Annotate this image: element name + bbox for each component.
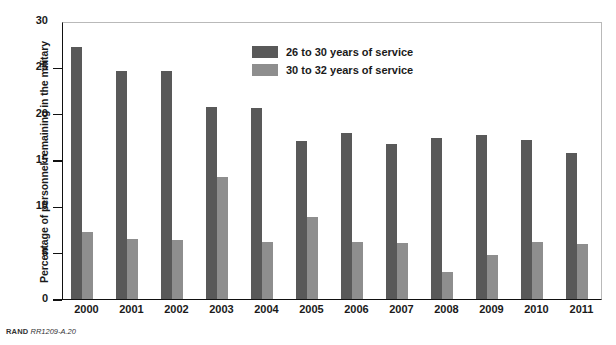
y-axis-tick-label: 0 [42, 292, 48, 304]
x-axis-tick-label: 2001 [109, 303, 154, 315]
x-axis-tick-label: 2006 [334, 303, 379, 315]
footnote-code: RR1209-A.20 [30, 327, 75, 336]
x-axis-tick-label: 2005 [289, 303, 334, 315]
bar[interactable] [487, 255, 498, 299]
bar[interactable] [127, 239, 138, 299]
bar-group [423, 23, 468, 299]
bar[interactable] [352, 242, 363, 299]
bar[interactable] [71, 47, 82, 299]
y-axis-tick-label: 10 [36, 199, 48, 211]
legend-label: 26 to 30 years of service [286, 46, 413, 58]
bar[interactable] [577, 244, 588, 299]
legend-swatch [252, 64, 278, 76]
bar[interactable] [386, 144, 397, 299]
bar[interactable] [442, 272, 453, 299]
x-axis-tick-label: 2000 [64, 303, 109, 315]
y-axis-tick-label: 5 [42, 246, 48, 258]
chart-figure: Percentage of personnel remaining in the… [0, 0, 616, 345]
legend-swatch [252, 46, 278, 58]
bar[interactable] [566, 153, 577, 299]
x-axis-tick-label: 2010 [514, 303, 559, 315]
bar[interactable] [217, 177, 228, 299]
legend-item[interactable]: 26 to 30 years of service [252, 44, 413, 59]
x-axis-tick-label: 2008 [424, 303, 469, 315]
footnote-org: RAND [6, 327, 28, 336]
x-axis-tick-label: 2004 [244, 303, 289, 315]
y-axis-tick-label: 15 [36, 153, 48, 165]
y-axis-tick-mark [53, 68, 62, 70]
y-axis-tick-label: 20 [36, 107, 48, 119]
bar-group [558, 23, 603, 299]
bar[interactable] [521, 140, 532, 299]
bar[interactable] [431, 138, 442, 299]
bar[interactable] [82, 232, 93, 299]
bar[interactable] [397, 243, 408, 299]
bar[interactable] [172, 240, 183, 299]
legend-label: 30 to 32 years of service [286, 64, 413, 76]
x-axis-tick-label: 2002 [154, 303, 199, 315]
bar[interactable] [116, 71, 127, 299]
x-axis-tick-label: 2007 [379, 303, 424, 315]
legend-item[interactable]: 30 to 32 years of service [252, 62, 413, 77]
bar[interactable] [161, 71, 172, 299]
y-axis-tick-mark [53, 253, 62, 255]
x-axis-tick-label: 2009 [469, 303, 514, 315]
bar-group [468, 23, 513, 299]
y-axis-tick-mark [53, 114, 62, 116]
y-axis-tick-mark [53, 160, 62, 162]
bar-group [198, 23, 243, 299]
bar-group [513, 23, 558, 299]
bar-group [63, 23, 108, 299]
chart-legend: 26 to 30 years of service30 to 32 years … [252, 44, 413, 80]
x-axis-tick-label: 2011 [559, 303, 604, 315]
bar[interactable] [206, 107, 217, 299]
x-axis-tick-label: 2003 [199, 303, 244, 315]
bar-group [153, 23, 198, 299]
y-axis-tick-mark [53, 207, 62, 209]
bar[interactable] [341, 133, 352, 299]
bar[interactable] [307, 217, 318, 299]
bar[interactable] [262, 242, 273, 299]
bar[interactable] [476, 135, 487, 299]
footnote: RANDRR1209-A.20 [6, 327, 76, 336]
y-axis-tick-label: 25 [36, 60, 48, 72]
y-axis-tick-label: 30 [36, 14, 48, 26]
bar[interactable] [296, 141, 307, 299]
bar[interactable] [251, 108, 262, 299]
y-axis-tick-mark [53, 299, 62, 301]
bar[interactable] [532, 242, 543, 299]
bar-group [108, 23, 153, 299]
